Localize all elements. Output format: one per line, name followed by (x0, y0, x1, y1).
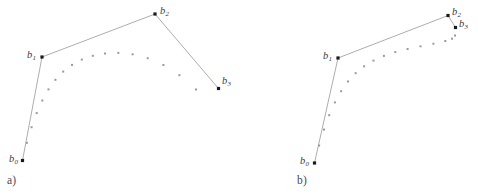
panel-a: b0b1b2b3 a) (0, 0, 239, 194)
bezier-sample-dot (92, 55, 94, 57)
figure-root: b0b1b2b3 a) b0b1b2b3 b) (0, 0, 478, 194)
label-subscript: 3 (228, 80, 232, 88)
label-letter: b (452, 6, 457, 17)
label-letter: b (459, 18, 464, 29)
sample-dots-a (26, 52, 197, 144)
control-points-a (21, 12, 220, 162)
bezier-sample-dot (54, 79, 56, 81)
bezier-sample-dot (147, 57, 149, 59)
bezier-sample-dot (420, 45, 422, 47)
bezier-sample-dot (71, 64, 73, 66)
control-polygon-line (23, 14, 219, 161)
label-subscript: 0 (306, 160, 310, 168)
bezier-sample-dot (394, 51, 396, 53)
bezier-sample-dot (334, 101, 336, 103)
bezier-sample-dot (26, 142, 28, 144)
bezier-sample-dot (454, 35, 456, 37)
label-subscript: 1 (329, 55, 333, 63)
control-polygon-b (315, 16, 456, 164)
bezier-sample-dot (104, 53, 106, 55)
control-point-label-b1: b1 (27, 50, 36, 61)
bezier-sample-dot (373, 60, 375, 62)
control-point-b1 (40, 55, 43, 58)
bezier-sample-dot (451, 38, 453, 40)
bezier-sample-dot (132, 53, 134, 55)
bezier-sample-dot (48, 88, 50, 90)
control-point-label-b0: b0 (300, 156, 309, 167)
bezier-sample-dot (363, 65, 365, 67)
bezier-sample-dot (318, 145, 320, 147)
bezier-sample-dot (347, 81, 349, 83)
control-point-b0 (313, 161, 316, 164)
label-letter: b (9, 153, 14, 164)
panel-b-canvas (239, 0, 478, 194)
bezier-sample-dot (41, 100, 43, 102)
panel-a-caption: a) (7, 174, 16, 186)
bezier-sample-dot (340, 90, 342, 92)
label-subscript: 3 (465, 23, 469, 31)
label-letter: b (27, 49, 32, 60)
bezier-sample-dot (444, 40, 446, 42)
control-point-label-b2: b2 (160, 6, 169, 17)
control-point-label-b3: b3 (222, 76, 231, 87)
bezier-sample-dot (81, 59, 83, 61)
control-point-label-b2: b2 (452, 7, 461, 18)
bezier-sample-dot (117, 52, 119, 54)
control-points-b (313, 14, 457, 165)
bezier-sample-dot (195, 89, 197, 91)
bezier-sample-dot (328, 114, 330, 116)
label-letter: b (300, 155, 305, 166)
control-point-b2 (153, 12, 156, 15)
control-point-b3 (454, 26, 457, 29)
label-letter: b (160, 5, 165, 16)
bezier-sample-dot (62, 71, 64, 73)
panel-b: b0b1b2b3 b) (239, 0, 478, 194)
control-polygon-line (315, 16, 456, 164)
label-letter: b (222, 75, 227, 86)
panel-b-caption: b) (297, 174, 307, 186)
label-subscript: 2 (166, 10, 170, 18)
label-subscript: 0 (15, 158, 19, 166)
control-point-label-b1: b1 (323, 51, 332, 62)
bezier-sample-dot (36, 112, 38, 114)
bezier-sample-dot (432, 43, 434, 45)
control-polygon-a (23, 14, 219, 161)
control-point-label-b0: b0 (9, 154, 18, 165)
control-point-b0 (21, 159, 24, 162)
label-letter: b (323, 50, 328, 61)
bezier-sample-dot (407, 48, 409, 50)
bezier-sample-dot (178, 74, 180, 76)
bezier-sample-dot (31, 126, 33, 128)
bezier-sample-dot (355, 72, 357, 74)
control-point-b2 (446, 14, 449, 17)
sample-dots-b (318, 35, 456, 147)
panel-a-canvas (0, 0, 239, 194)
control-point-b3 (217, 87, 220, 90)
bezier-sample-dot (323, 129, 325, 131)
label-subscript: 1 (33, 54, 37, 62)
control-point-b1 (336, 56, 339, 59)
control-point-label-b3: b3 (459, 19, 468, 30)
bezier-sample-dot (383, 55, 385, 57)
bezier-sample-dot (162, 64, 164, 66)
